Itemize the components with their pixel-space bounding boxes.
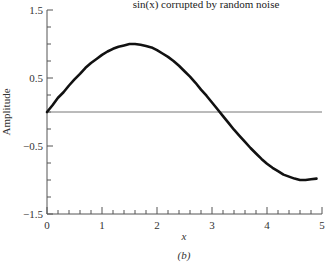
y-tick-label: −1.5 bbox=[23, 208, 43, 220]
x-axis-label: x bbox=[181, 230, 187, 242]
x-tick-label: 1 bbox=[99, 219, 105, 231]
y-tick-label: −0.5 bbox=[23, 140, 43, 152]
chart: sin(x) corrupted by random noise 0123451… bbox=[0, 0, 327, 264]
x-tick-label: 3 bbox=[209, 219, 215, 231]
axis-ticks: 0123451.50.5−0.5−1.5 bbox=[23, 4, 325, 231]
chart-title: sin(x) corrupted by random noise bbox=[133, 0, 280, 11]
x-tick-label: 4 bbox=[264, 219, 270, 231]
y-tick-label: 1.5 bbox=[29, 4, 43, 16]
y-axis-label: Amplitude bbox=[0, 88, 12, 135]
figure-caption: (b) bbox=[178, 249, 191, 262]
x-tick-label: 2 bbox=[154, 219, 160, 231]
y-tick-label: 0.5 bbox=[29, 72, 43, 84]
x-tick-label: 0 bbox=[44, 219, 50, 231]
x-tick-label: 5 bbox=[319, 219, 325, 231]
